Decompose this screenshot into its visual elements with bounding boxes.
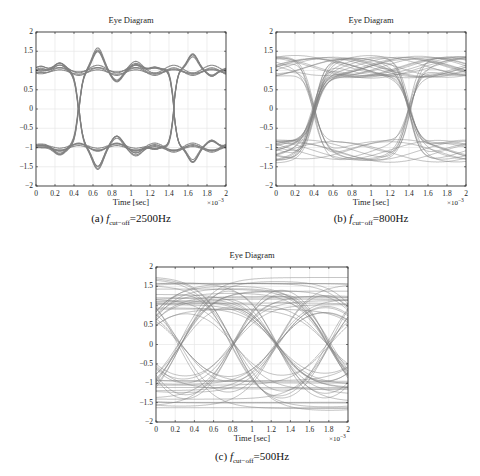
y-tick-label: 1 (131, 301, 153, 310)
y-tick-label: 1.5 (11, 46, 33, 55)
y-tick-label: 0.5 (11, 85, 33, 94)
y-tick-label: −0.5 (251, 123, 273, 132)
y-tick-label: −1 (11, 143, 33, 152)
figure-caption: (c) fcut−off=500Hz (156, 450, 348, 465)
y-tick-label: 0 (131, 340, 153, 349)
eye-diagram-panel-b: Eye Diagram 21.510.50−0.5−1−1.5−200.20.4… (240, 0, 480, 240)
y-tick-label: 1.5 (251, 46, 273, 55)
eye-diagram-panel-a: Eye Diagram 21.510.50−0.5−1−1.5−200.20.4… (0, 0, 240, 240)
x-axis-label: Time [sec] (156, 433, 348, 443)
y-tick-label: 2 (11, 27, 33, 36)
y-tick-label: −1.5 (131, 398, 153, 407)
x-axis-exponent: ×10−3 (447, 197, 464, 207)
y-tick-label: −1 (131, 378, 153, 387)
y-tick-label: −1.5 (251, 162, 273, 171)
x-axis-exponent: ×10−3 (207, 197, 224, 207)
y-tick-label: 2 (131, 262, 153, 271)
y-tick-label: 2 (251, 27, 273, 36)
figure-caption: (b) fcut−off=800Hz (276, 212, 466, 227)
y-tick-label: −1.5 (11, 162, 33, 171)
eye-diagram-panel-c: Eye Diagram 21.510.50−0.5−1−1.5−200.20.4… (120, 235, 360, 476)
x-axis-label: Time [sec] (36, 197, 226, 207)
y-tick-label: −0.5 (131, 359, 153, 368)
y-tick-label: −1 (251, 143, 273, 152)
y-tick-label: 1 (251, 66, 273, 75)
y-tick-label: 0 (251, 104, 273, 113)
x-axis-exponent: ×10−3 (329, 433, 346, 443)
y-tick-label: 1 (11, 66, 33, 75)
figure-caption: (a) fcut−off=2500Hz (36, 212, 226, 227)
y-tick-label: 0.5 (131, 320, 153, 329)
x-axis-label: Time [sec] (276, 197, 466, 207)
y-tick-label: 0.5 (251, 85, 273, 94)
y-tick-label: 1.5 (131, 281, 153, 290)
y-tick-label: 0 (11, 104, 33, 113)
y-tick-label: −0.5 (11, 123, 33, 132)
